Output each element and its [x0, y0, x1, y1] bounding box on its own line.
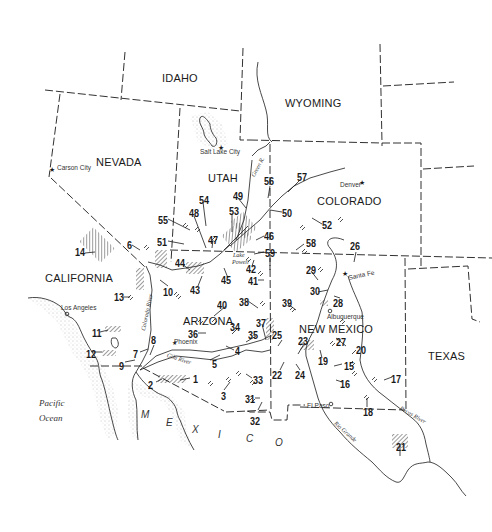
site-label: 38: [239, 297, 249, 308]
state-label-california: CALIFORNIA: [45, 273, 113, 284]
site-label: 3: [221, 391, 226, 402]
site-label: 45: [221, 275, 231, 286]
site-label: 28: [333, 298, 343, 309]
site-label: 31: [245, 394, 255, 405]
lake-label-lake: Lake: [233, 252, 245, 258]
city-label-salt-lake-city: Salt Lake City: [200, 149, 240, 156]
site-label: 9: [119, 361, 124, 372]
site-label: 16: [340, 379, 350, 390]
state-label-wyoming: WYOMING: [285, 98, 341, 109]
site-label: 27: [336, 337, 346, 348]
site-label: 37: [256, 318, 266, 329]
site-label: 15: [344, 361, 354, 372]
site-label: 55: [158, 215, 168, 226]
site-label: 56: [264, 176, 274, 187]
site-label: 49: [233, 191, 243, 202]
mexico-letter: O: [275, 438, 283, 448]
city-label-carson-city: Carson City: [57, 165, 91, 172]
site-label: 35: [248, 330, 258, 341]
site-label: 34: [230, 322, 240, 333]
site-label: 47: [208, 235, 218, 246]
state-label-new-mexico: NEW MEXICO: [299, 324, 373, 335]
site-label: 20: [356, 345, 366, 356]
site-label: 22: [272, 370, 282, 381]
site-label: 41: [248, 276, 258, 287]
city-label-los-angeles: Los Angeles: [61, 305, 96, 312]
state-label-idaho: IDAHO: [162, 73, 198, 84]
site-label: 13: [114, 292, 124, 303]
site-label: 1: [193, 374, 198, 385]
site-label: 8: [151, 335, 156, 346]
site-label: 29: [306, 265, 316, 276]
carson-city-star-icon: ★: [49, 166, 55, 173]
site-label: 2: [148, 380, 153, 391]
site-label: 26: [350, 241, 360, 252]
site-label: 52: [322, 220, 332, 231]
city-label-denver: Denver: [340, 182, 361, 189]
site-label: 39: [282, 298, 292, 309]
site-label: 4: [235, 346, 240, 357]
site-label: 48: [189, 208, 199, 219]
site-label: 44: [175, 258, 185, 269]
site-label: 43: [190, 285, 200, 296]
site-label: 5: [212, 359, 217, 370]
site-label: 54: [199, 195, 209, 206]
site-label: 21: [396, 442, 406, 453]
site-label: 58: [306, 238, 316, 249]
mexico-letter: X: [192, 425, 199, 435]
site-label: 25: [272, 330, 282, 341]
site-label: 24: [295, 370, 305, 381]
site-label: 11: [92, 328, 102, 339]
site-label: 18: [363, 407, 373, 418]
mexico-letter: C: [246, 434, 253, 444]
site-label: 50: [282, 208, 292, 219]
site-label: 53: [229, 206, 239, 217]
site-label: 51: [157, 237, 167, 248]
site-label: 42: [246, 264, 256, 275]
site-label: 6: [127, 240, 132, 251]
site-label: 23: [298, 336, 308, 347]
site-label: 32: [250, 416, 260, 427]
site-label: 17: [391, 374, 401, 385]
mexico-letter: M: [141, 410, 149, 420]
el-paso-circle-icon: [329, 402, 333, 406]
site-label: 30: [310, 286, 320, 297]
ocean-label-pacific: Pacific: [39, 399, 65, 408]
state-label-nevada: NEVADA: [96, 157, 142, 168]
city-label-el-paso: El Paso: [307, 403, 329, 410]
site-label: 36: [188, 329, 198, 340]
ocean-label-ocean: Ocean: [39, 414, 63, 423]
city-label-albuquerque: Albuquerque: [327, 314, 364, 321]
site-label: 57: [297, 172, 307, 183]
state-label-texas: TEXAS: [428, 351, 465, 362]
state-label-colorado: COLORADO: [317, 196, 382, 207]
mexico-letter: I: [218, 430, 221, 440]
site-label: 7: [133, 349, 138, 360]
state-label-utah: UTAH: [208, 173, 238, 184]
mexico-letter: E: [166, 418, 173, 428]
site-label: 46: [264, 231, 274, 242]
site-label: 12: [86, 349, 96, 360]
state-label-arizona: ARIZONA: [183, 316, 233, 327]
site-label: 59: [265, 248, 275, 259]
site-label: 33: [253, 375, 263, 386]
site-label: 40: [217, 300, 227, 311]
site-label: 19: [318, 356, 328, 367]
site-label: 14: [75, 247, 85, 258]
site-label: 10: [163, 287, 173, 298]
